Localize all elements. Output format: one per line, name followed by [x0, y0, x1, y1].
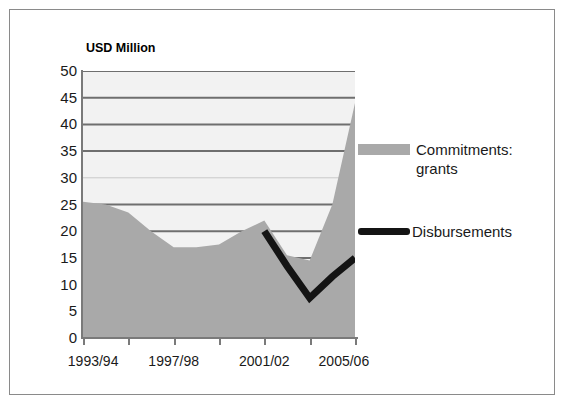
- y-tick-label-40: 40: [35, 116, 77, 131]
- y-tick-label-30: 30: [35, 170, 77, 185]
- x-axis-tick-labels: 1993/941997/982001/022005/06: [83, 353, 373, 377]
- y-axis-line: [81, 70, 83, 339]
- legend-swatch-area-icon: [358, 144, 410, 155]
- plot-svg: [83, 71, 355, 338]
- legend-label-commitments-grants: Commitments: grants: [416, 140, 556, 178]
- y-tick-label-50: 50: [35, 63, 77, 78]
- y-tick-label-35: 35: [35, 143, 77, 158]
- y-tick-label-5: 5: [35, 303, 77, 318]
- legend-swatch-line-icon: [358, 228, 410, 235]
- x-tick-label-1997-98: 1997/98: [148, 353, 199, 369]
- x-tick-label-1993-94: 1993/94: [68, 353, 119, 369]
- x-tick-mark-0: [83, 338, 85, 345]
- y-axis-units-label: USD Million: [86, 41, 155, 55]
- x-tick-mark-12: [355, 338, 357, 345]
- plot-area: [83, 71, 355, 338]
- x-tick-label-2005-06: 2005/06: [319, 353, 370, 369]
- y-tick-label-25: 25: [35, 197, 77, 212]
- y-tick-label-45: 45: [35, 90, 77, 105]
- x-tick-mark-10: [310, 338, 312, 345]
- legend-label-disbursements: Disbursements: [412, 222, 512, 241]
- series-area-commitments-grants: [83, 103, 355, 338]
- x-tick-mark-6: [219, 338, 221, 345]
- y-tick-label-15: 15: [35, 250, 77, 265]
- legend-item-commitments-grants: Commitments: grants: [358, 140, 556, 178]
- x-tick-label-2001-02: 2001/02: [239, 353, 290, 369]
- y-axis-tick-labels: 50454035302520151050: [27, 71, 77, 338]
- y-tick-label-10: 10: [35, 277, 77, 292]
- chart-figure: (2005/06 constant prices) USD Million 50…: [0, 0, 565, 406]
- x-tick-mark-8: [264, 338, 266, 345]
- x-tick-mark-2: [128, 338, 130, 345]
- y-tick-label-0: 0: [35, 330, 77, 345]
- x-tick-mark-4: [174, 338, 176, 345]
- y-tick-label-20: 20: [35, 223, 77, 238]
- legend-item-disbursements: Disbursements: [358, 222, 512, 241]
